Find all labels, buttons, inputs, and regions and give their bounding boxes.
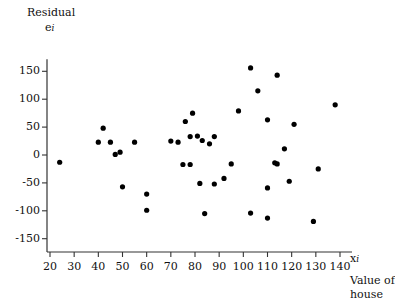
data-point <box>236 108 241 113</box>
residual-scatter-plot: Residual ei xi Value of house 150100500-… <box>0 0 395 305</box>
axis-lines <box>47 59 352 252</box>
data-point <box>117 150 122 155</box>
y-tick-label: 150 <box>4 64 40 77</box>
data-point <box>282 146 287 151</box>
data-point <box>190 111 195 116</box>
data-point <box>265 117 270 122</box>
data-point <box>221 176 226 181</box>
data-point <box>207 141 212 146</box>
data-point <box>333 102 338 107</box>
data-point <box>255 88 260 93</box>
y-tick-label: 50 <box>4 120 40 133</box>
data-point <box>248 65 253 70</box>
y-tick-label: 100 <box>4 92 40 105</box>
data-point <box>248 210 253 215</box>
data-point <box>144 208 149 213</box>
data-point <box>175 140 180 145</box>
data-point <box>108 140 113 145</box>
data-point <box>180 162 185 167</box>
data-point <box>316 166 321 171</box>
data-point <box>132 140 137 145</box>
data-point <box>188 134 193 139</box>
data-point <box>229 161 234 166</box>
data-point <box>265 185 270 190</box>
data-point <box>195 133 200 138</box>
data-point <box>113 152 118 157</box>
data-point <box>265 215 270 220</box>
data-point <box>96 140 101 145</box>
data-point <box>212 181 217 186</box>
data-point <box>275 161 280 166</box>
data-points <box>57 65 338 224</box>
data-point <box>188 162 193 167</box>
y-tick-label: -50 <box>4 176 40 189</box>
data-point <box>311 219 316 224</box>
y-tick-label: 0 <box>4 148 40 161</box>
data-point <box>101 126 106 131</box>
data-point <box>212 134 217 139</box>
data-point <box>57 160 62 165</box>
data-point <box>120 184 125 189</box>
data-point <box>197 181 202 186</box>
data-point <box>275 73 280 78</box>
y-tick-label: -150 <box>4 232 40 245</box>
data-point <box>168 138 173 143</box>
data-point <box>144 191 149 196</box>
data-point <box>291 122 296 127</box>
y-tick-label: -100 <box>4 204 40 217</box>
data-point <box>183 119 188 124</box>
data-point <box>202 211 207 216</box>
x-tick-label: 140 <box>325 260 355 273</box>
data-point <box>287 179 292 184</box>
data-point <box>200 138 205 143</box>
